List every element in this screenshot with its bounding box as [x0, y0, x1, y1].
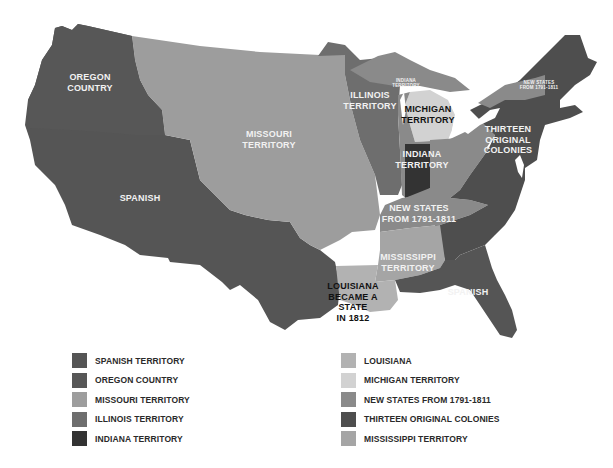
legend-label: INDIANA TERRITORY	[95, 434, 183, 444]
territorial-map: OREGON COUNTRY MISSOURI TERRITORY SPANIS…	[0, 0, 613, 340]
label-new-states: NEW STATES FROM 1791-1811	[378, 203, 460, 224]
legend-item: MICHIGAN TERRITORY	[341, 371, 500, 391]
legend-swatch-indiana	[72, 431, 87, 446]
label-indiana-territory: INDIANA TERRITORY	[390, 149, 454, 170]
legend-item: ILLINOIS TERRITORY	[72, 410, 190, 430]
label-oregon-country: OREGON COUNTRY	[60, 72, 120, 93]
legend-item: THIRTEEN ORIGINAL COLONIES	[341, 410, 500, 430]
label-indiana-territory-small: INDIANA TERRITORY	[388, 78, 424, 88]
legend-item: NEW STATES FROM 1791-1811	[341, 390, 500, 410]
label-new-states-ne: NEW STATES FROM 1791-1811	[514, 80, 564, 90]
legend-item: MISSOURI TERRITORY	[72, 390, 190, 410]
legend-swatch-new-states	[341, 392, 356, 407]
legend-swatch-missouri	[72, 392, 87, 407]
legend-item: LOUISIANA	[341, 351, 500, 371]
legend-left: SPANISH TERRITORY OREGON COUNTRY MISSOUR…	[72, 351, 190, 449]
label-illinois-territory: ILLINOIS TERRITORY	[335, 90, 405, 111]
label-spanish-florida: SPANISH	[443, 287, 493, 298]
label-mississippi-territory: MISSISSIPPI TERRITORY	[375, 252, 441, 273]
label-thirteen-colonies: THIRTEEN ORIGINAL COLONIES	[478, 124, 538, 156]
legend-item: SPANISH TERRITORY	[72, 351, 190, 371]
legend-swatch-thirteen-colonies	[341, 412, 356, 427]
legend-item: MISSISSIPPI TERRITORY	[341, 429, 500, 449]
label-louisiana-state: LOUISIANA BECAME A STATE IN 1812	[313, 281, 393, 323]
legend-label: MISSISSIPPI TERRITORY	[364, 434, 468, 444]
label-spanish-west: SPANISH	[110, 193, 170, 204]
legend-item: INDIANA TERRITORY	[72, 429, 190, 449]
legend-label: MICHIGAN TERRITORY	[364, 375, 460, 385]
legend-swatch-louisiana	[341, 353, 356, 368]
legend-item: OREGON COUNTRY	[72, 371, 190, 391]
label-michigan-territory: MICHIGAN TERRITORY	[398, 104, 458, 125]
legend-swatch-spanish	[72, 353, 87, 368]
legend-label: MISSOURI TERRITORY	[95, 395, 190, 405]
legend-right: LOUISIANA MICHIGAN TERRITORY NEW STATES …	[341, 351, 500, 449]
legend-swatch-oregon	[72, 373, 87, 388]
legend-swatch-michigan	[341, 373, 356, 388]
legend-label: OREGON COUNTRY	[95, 375, 178, 385]
legend-label: LOUISIANA	[364, 356, 412, 366]
legend-swatch-illinois	[72, 412, 87, 427]
legend-label: SPANISH TERRITORY	[95, 356, 185, 366]
legend-swatch-mississippi	[341, 431, 356, 446]
label-missouri-territory: MISSOURI TERRITORY	[234, 129, 304, 150]
legend-label: THIRTEEN ORIGINAL COLONIES	[364, 414, 500, 424]
legend-label: ILLINOIS TERRITORY	[95, 414, 184, 424]
legend-label: NEW STATES FROM 1791-1811	[364, 395, 491, 405]
us-territories-svg	[0, 0, 613, 340]
